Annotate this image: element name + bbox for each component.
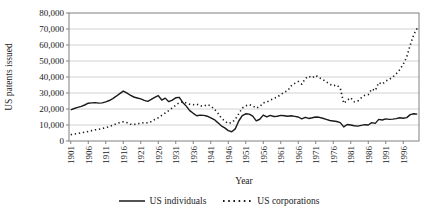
solid-line-swatch [119, 197, 145, 205]
y-tick-label: 30,000 [39, 88, 64, 98]
corporations-line [71, 28, 418, 134]
dotted-line-swatch [222, 197, 252, 205]
x-tick-label: 1911 [101, 146, 111, 164]
chart: 010,00020,00030,00040,00050,00060,00070,… [0, 0, 438, 218]
x-tick-label: 1981 [346, 146, 356, 164]
y-tick-label: 20,000 [39, 104, 64, 114]
y-tick-label: 80,000 [39, 8, 64, 18]
y-tick-label: 10,000 [39, 120, 64, 130]
x-tick-label: 1921 [136, 146, 146, 164]
x-tick-label: 1931 [171, 146, 181, 164]
x-tick-label: 1961 [276, 146, 286, 164]
y-tick-label: 70,000 [39, 24, 64, 34]
x-tick-label: 1996 [399, 146, 409, 165]
x-tick-label: 1901 [66, 146, 76, 164]
x-tick-label: 1946 [224, 146, 234, 165]
individuals-line [71, 91, 418, 132]
y-tick-label: 0 [60, 136, 65, 146]
y-axis-title: US patents issued [4, 43, 14, 111]
x-axis-title: Year [69, 176, 419, 186]
x-tick-label: 1926 [154, 146, 164, 165]
x-tick-label: 1991 [381, 146, 391, 164]
y-tick-label: 40,000 [39, 72, 64, 82]
x-tick-label: 1936 [189, 146, 199, 165]
x-tick-label: 1941 [206, 146, 216, 164]
legend-item-individuals: US individuals [119, 196, 207, 206]
x-tick-label: 1971 [311, 146, 321, 164]
x-tick-label: 1906 [84, 146, 94, 165]
x-tick-label: 1951 [241, 146, 251, 164]
legend-item-corporations: US corporations [222, 196, 319, 206]
y-tick-label: 60,000 [39, 40, 64, 50]
x-tick-label: 1986 [364, 146, 374, 165]
legend-label-corporations: US corporations [257, 196, 319, 206]
legend-label-individuals: US individuals [150, 196, 207, 206]
y-tick-label: 50,000 [39, 56, 64, 66]
x-tick-label: 1976 [329, 146, 339, 165]
x-tick-label: 1956 [259, 146, 269, 165]
x-tick-label: 1916 [119, 146, 129, 165]
x-tick-label: 1966 [294, 146, 304, 165]
legend: US individuals US corporations [0, 193, 438, 209]
